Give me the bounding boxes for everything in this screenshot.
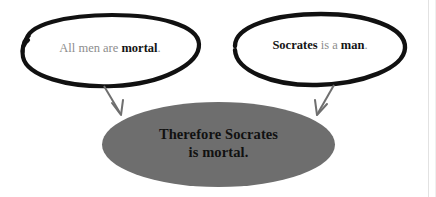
premise-right-text-bold-2: man — [341, 38, 365, 52]
conclusion-text: Therefore Socrates is mortal. — [159, 126, 278, 162]
premise-right-text-normal: is a — [318, 38, 341, 52]
premise-bubble-right: Socrates is a man. — [229, 10, 411, 88]
premise-bubble-left: All men are mortal. — [16, 12, 204, 90]
conclusion-line-1: Therefore Socrates — [159, 126, 278, 143]
premise-right-text-bold-1: Socrates — [272, 38, 317, 52]
premise-left-text-period: . — [158, 41, 161, 55]
diagram-canvas: All men are mortal. Socrates is a man. T… — [0, 0, 436, 197]
premise-left-text-bold: mortal — [121, 41, 157, 55]
premise-left-text-normal: All men are — [59, 41, 121, 55]
arrow-left — [104, 86, 123, 115]
right-edge-rule — [428, 0, 429, 197]
arrow-right — [315, 85, 334, 115]
premise-right-text-period: . — [364, 38, 367, 52]
premise-right-text: Socrates is a man. — [229, 38, 411, 52]
premise-left-text: All men are mortal. — [16, 41, 204, 55]
conclusion-ellipse: Therefore Socrates is mortal. — [102, 102, 335, 187]
conclusion-line-2: is mortal. — [159, 144, 278, 161]
